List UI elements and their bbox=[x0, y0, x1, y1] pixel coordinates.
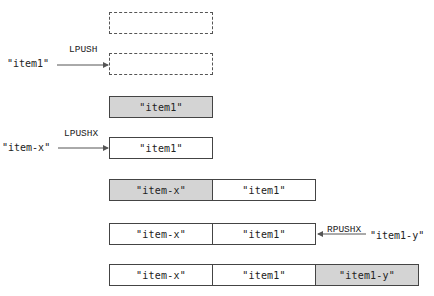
arrows-layer bbox=[0, 0, 434, 296]
